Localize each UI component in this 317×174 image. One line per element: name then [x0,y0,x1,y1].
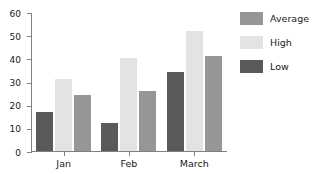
x-axis-tick-label: March [180,159,209,169]
y-axis-tick: 0 [27,152,32,153]
y-axis-tick-label: 20 [10,102,21,111]
bar-feb-low [101,123,118,151]
bar-group-feb: Feb [96,13,161,151]
bar-march-average [205,56,222,151]
x-axis-tick [129,152,130,156]
bar-group-march: March [162,13,227,151]
y-axis-tick-label: 40 [10,55,21,64]
legend-label-high: High [270,38,292,48]
legend-item-high: High [240,36,314,49]
bar-chart: 60 50 40 30 20 10 0 Jan [0,0,317,174]
y-axis-tick-label: 60 [10,9,21,18]
bar-march-low [167,72,184,151]
bar-group-jan: Jan [31,13,96,151]
plot-area: 60 50 40 30 20 10 0 Jan [31,13,227,152]
bar-march-high [186,31,203,151]
y-axis-tick-label: 10 [10,125,21,134]
x-axis-tick [194,152,195,156]
y-axis-tick-label: 30 [10,79,21,88]
x-axis-tick-label: Jan [56,159,71,169]
legend-item-average: Average [240,12,314,25]
legend-swatch-high [240,36,263,49]
legend-item-low: Low [240,60,314,73]
x-axis-tick-label: Feb [121,159,138,169]
bar-jan-low [36,112,53,151]
y-axis-tick-label: 0 [15,148,21,157]
legend-swatch-low [240,60,263,73]
legend-swatch-average [240,12,263,25]
legend-label-average: Average [270,14,309,24]
chart-legend: Average High Low [240,12,314,84]
bar-jan-average [74,95,91,151]
y-axis-tick-label: 50 [10,32,21,41]
bar-jan-high [55,79,72,151]
legend-label-low: Low [270,62,289,72]
x-axis-tick [64,152,65,156]
bar-feb-high [120,58,137,151]
bar-feb-average [139,91,156,151]
bar-groups: Jan Feb March [31,13,227,151]
